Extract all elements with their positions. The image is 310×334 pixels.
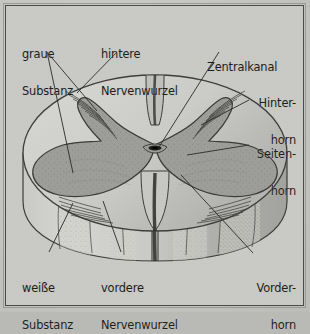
label-hintere-nervenwurzel-line1: hintere (101, 48, 178, 60)
label-hinterhorn-line1: Hinter- (259, 97, 296, 109)
label-graue-substanz-line1: graue (22, 48, 73, 60)
label-graue-substanz: graue Substanz (22, 24, 73, 122)
label-vordere-nervenwurzel: vordere Nervenwurzel (101, 258, 178, 334)
label-hintere-nervenwurzel-line2: Nervenwurzel (101, 85, 178, 97)
label-vordere-nervenwurzel-line1: vordere (101, 282, 178, 294)
label-vorderhorn-line1: Vorder- (256, 282, 296, 294)
label-seitenhorn-line1: Seiten- (257, 148, 296, 160)
label-vorderhorn: Vorder- horn (256, 258, 296, 334)
label-weisse-substanz: weiße Substanz (22, 258, 73, 334)
label-hintere-nervenwurzel: hintere Nervenwurzel (101, 24, 178, 122)
label-seitenhorn: Seiten- horn (257, 124, 296, 222)
label-graue-substanz-line2: Substanz (22, 85, 73, 97)
label-seitenhorn-line2: horn (257, 185, 296, 197)
label-zentralkanal-line1: Zentralkanal (207, 61, 277, 73)
label-vordere-nervenwurzel-line2: Nervenwurzel (101, 319, 178, 331)
label-weisse-substanz-line2: Substanz (22, 319, 73, 331)
label-vorderhorn-line2: horn (256, 319, 296, 331)
label-weisse-substanz-line1: weiße (22, 282, 73, 294)
